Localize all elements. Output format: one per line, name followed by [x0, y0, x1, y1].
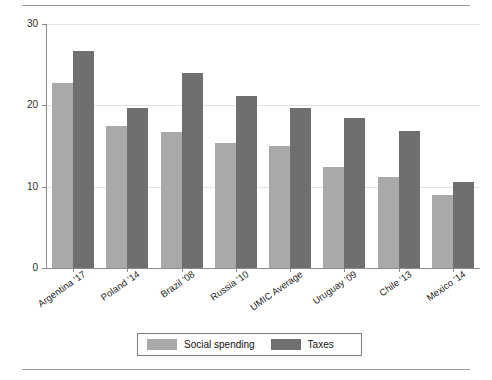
legend-label-social-spending: Social spending: [184, 339, 255, 350]
bar-social-spending: [161, 132, 182, 268]
bar-group: [432, 24, 474, 268]
legend-label-taxes: Taxes: [308, 339, 334, 350]
bar-group: [323, 24, 365, 268]
bar-group: [106, 24, 148, 268]
bar-social-spending: [52, 83, 73, 268]
bar-taxes: [236, 96, 257, 268]
y-tick-label: 30: [14, 19, 38, 29]
bottom-divider-rule: [22, 369, 470, 370]
bar-taxes: [344, 118, 365, 268]
legend-swatch-taxes-icon: [271, 339, 301, 350]
y-tick-label: 20: [14, 100, 38, 110]
y-tick-label: 10: [14, 182, 38, 192]
bar-social-spending: [432, 195, 453, 268]
x-tick-label: Poland '14: [37, 268, 142, 346]
top-divider-rule: [22, 5, 470, 6]
bar-social-spending: [378, 177, 399, 268]
x-tick-labels: Argentina '17Poland '14Brazil '08Russia …: [0, 268, 492, 328]
bar-social-spending: [215, 143, 236, 268]
bar-taxes: [453, 182, 474, 268]
bar-taxes: [290, 108, 311, 268]
bar-social-spending: [269, 146, 290, 268]
bar-social-spending: [106, 126, 127, 268]
bar-group: [52, 24, 94, 268]
bar-social-spending: [323, 167, 344, 268]
legend-swatch-social-spending-icon: [147, 339, 177, 350]
bar-group: [161, 24, 203, 268]
bar-taxes: [73, 51, 94, 268]
legend-item-taxes: Taxes: [271, 339, 334, 350]
x-tick-label: Mexico '14: [363, 268, 468, 346]
bar-taxes: [182, 73, 203, 268]
bar-group: [215, 24, 257, 268]
bar-taxes: [127, 108, 148, 268]
bar-group: [378, 24, 420, 268]
chart-figure: % of GDP 0102030 Argentina '17Poland '14…: [0, 0, 492, 380]
legend-item-social-spending: Social spending: [147, 339, 255, 350]
bar-series-area: [46, 24, 480, 268]
bar-taxes: [399, 131, 420, 268]
chart-legend: Social spending Taxes: [137, 333, 362, 356]
bar-group: [269, 24, 311, 268]
